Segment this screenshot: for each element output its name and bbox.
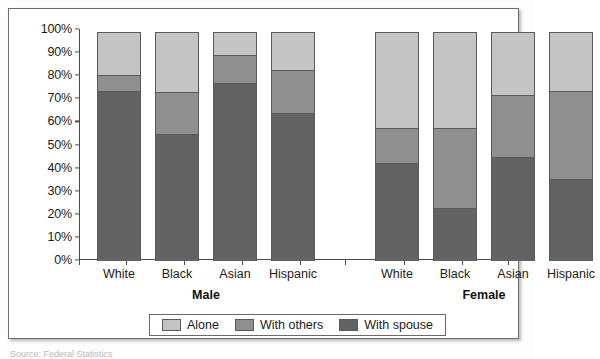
x-label-male-hispanic: Hispanic	[261, 267, 325, 281]
legend-swatch-alone-icon	[162, 319, 181, 331]
chart-frame: 100%90%80%70%60%50%40%30%20%10%0% WhiteB…	[8, 8, 519, 339]
x-tick-mark-5	[345, 260, 346, 265]
bar-female-asian	[491, 29, 535, 260]
segment-alone	[375, 32, 419, 129]
y-tick-label-100: 100%	[41, 22, 79, 36]
chart-legend: AloneWith othersWith spouse	[149, 314, 446, 336]
plot-area: 100%90%80%70%60%50%40%30%20%10%0%	[79, 29, 509, 260]
legend-swatch-spouse-icon	[339, 319, 358, 331]
y-tick-mark-90	[75, 52, 80, 53]
y-tick-mark-60	[75, 121, 80, 122]
segment-others	[433, 128, 477, 209]
segment-spouse	[491, 157, 535, 261]
group-label-male: Male	[97, 288, 315, 302]
segment-others	[213, 55, 257, 84]
y-tick-mark-70	[75, 98, 80, 99]
segment-alone	[549, 32, 593, 92]
segment-spouse	[97, 91, 141, 261]
legend-label-others: With others	[260, 318, 323, 332]
y-axis-line	[79, 29, 80, 260]
y-tick-mark-40	[75, 167, 80, 168]
x-label-male-black: Black	[145, 267, 209, 281]
bar-female-hispanic	[549, 29, 593, 260]
source-caption: Source: Federal Statistics	[10, 349, 113, 359]
segment-others	[97, 75, 141, 92]
segment-spouse	[155, 134, 199, 261]
segment-alone	[155, 32, 199, 93]
segment-others	[271, 70, 315, 114]
segment-alone	[491, 32, 535, 96]
bar-male-hispanic	[271, 29, 315, 260]
segment-alone	[97, 32, 141, 76]
x-tick-mark-0	[79, 260, 80, 265]
x-label-male-asian: Asian	[203, 267, 267, 281]
x-label-female-hispanic: Hispanic	[539, 267, 600, 281]
segment-spouse	[375, 163, 419, 261]
x-label-female-asian: Asian	[481, 267, 545, 281]
y-tick-mark-30	[75, 190, 80, 191]
bar-male-asian	[213, 29, 257, 260]
x-label-female-black: Black	[423, 267, 487, 281]
legend-item-others[interactable]: With others	[235, 318, 323, 332]
segment-others	[375, 128, 419, 164]
segment-spouse	[213, 83, 257, 261]
legend-item-alone[interactable]: Alone	[162, 318, 219, 332]
segment-spouse	[433, 208, 477, 261]
legend-swatch-others-icon	[235, 319, 254, 331]
segment-spouse	[549, 179, 593, 261]
y-tick-mark-80	[75, 75, 80, 76]
segment-alone	[433, 32, 477, 129]
y-tick-mark-20	[75, 213, 80, 214]
group-label-female: Female	[375, 288, 593, 302]
x-label-female-white: White	[365, 267, 429, 281]
bar-female-black	[433, 29, 477, 260]
bar-male-white	[97, 29, 141, 260]
y-tick-mark-100	[75, 28, 80, 29]
bar-male-black	[155, 29, 199, 260]
x-label-male-white: White	[87, 267, 151, 281]
legend-label-alone: Alone	[187, 318, 219, 332]
segment-alone	[213, 32, 257, 56]
segment-others	[549, 91, 593, 180]
y-tick-mark-10	[75, 236, 80, 237]
legend-item-spouse[interactable]: With spouse	[339, 318, 433, 332]
segment-others	[155, 92, 199, 135]
segment-alone	[271, 32, 315, 71]
y-tick-mark-50	[75, 144, 80, 145]
legend-label-spouse: With spouse	[364, 318, 433, 332]
bar-female-white	[375, 29, 419, 260]
segment-spouse	[271, 113, 315, 261]
segment-others	[491, 95, 535, 159]
